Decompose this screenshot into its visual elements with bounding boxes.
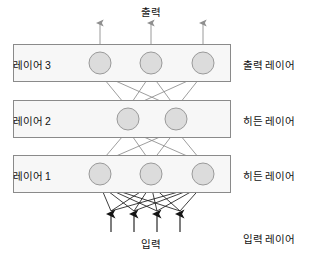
layer-label-layer-1: 레이어 1 bbox=[13, 168, 51, 183]
input-flow-label: 입력 bbox=[124, 236, 178, 251]
node-layer1-3 bbox=[192, 163, 214, 185]
node-layer2-1 bbox=[117, 108, 139, 130]
node-layer1-2 bbox=[140, 163, 162, 185]
nodes-layer bbox=[0, 0, 312, 256]
side-label-hidden-layer-1: 히든 레이어 bbox=[243, 168, 295, 183]
output-flow-label: 출력 bbox=[124, 4, 178, 19]
neural-network-diagram: 레이어 3 레이어 2 레이어 1 출력 레이어 히든 레이어 히든 레이어 입… bbox=[0, 0, 312, 256]
node-layer1-1 bbox=[89, 163, 111, 185]
side-label-input-layer: 입력 레이어 bbox=[243, 231, 295, 246]
node-layer3-3 bbox=[192, 52, 214, 74]
layer-label-layer-2: 레이어 2 bbox=[13, 113, 51, 128]
node-layer3-2 bbox=[140, 52, 162, 74]
node-layer2-2 bbox=[165, 108, 187, 130]
side-label-hidden-layer-2: 히든 레이어 bbox=[243, 113, 295, 128]
side-label-output-layer: 출력 레이어 bbox=[243, 57, 295, 72]
node-layer3-1 bbox=[89, 52, 111, 74]
layer-label-layer-3: 레이어 3 bbox=[13, 57, 51, 72]
